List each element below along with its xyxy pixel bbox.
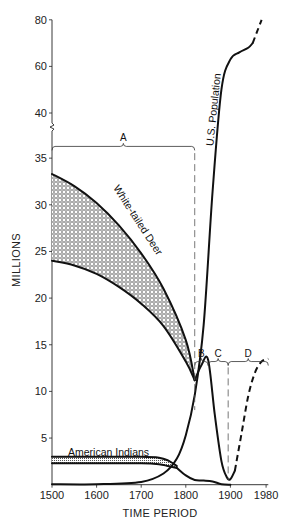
y-tick-label: 35 [35, 152, 47, 164]
y-tick-label: 25 [35, 245, 47, 257]
x-tick-label: 1700 [129, 489, 153, 501]
period-b-label: B [198, 348, 205, 359]
y-tick-label: 30 [35, 199, 47, 211]
y-tick-label: 5 [41, 432, 47, 444]
y-axis-title: MILLIONS [10, 233, 22, 287]
period-d-label: D [245, 348, 252, 359]
period-a-bracket [52, 143, 195, 150]
period-a-label: A [120, 132, 127, 143]
deer-projected-line [235, 359, 268, 471]
y-tick-label: 10 [35, 385, 47, 397]
deer-line [195, 357, 235, 480]
x-tick-label: 1500 [40, 489, 64, 501]
band-fills [52, 174, 195, 468]
x-axis-title: TIME PERIOD [123, 507, 198, 519]
us-population-projected-line [253, 20, 262, 43]
x-tick-label: 1980 [254, 489, 278, 501]
period-c-label: C [215, 348, 222, 359]
y-tick-label: 15 [35, 339, 47, 351]
x-tick-label: 1600 [84, 489, 108, 501]
y-tick-label: 20 [35, 292, 47, 304]
period-c-bracket [208, 359, 228, 366]
population-chart: 1500160017001800190019805101520253035406… [0, 0, 293, 526]
y-tick-label: 60 [35, 60, 47, 72]
x-tick-label: 1900 [218, 489, 242, 501]
y-tick-label: 40 [35, 107, 47, 119]
american-indians-lower-line [52, 463, 177, 468]
american-indians-label: American Indians [68, 446, 149, 458]
x-tick-label: 1800 [174, 489, 198, 501]
y-tick-label: 80 [35, 14, 47, 26]
american-indians-line [177, 468, 231, 485]
